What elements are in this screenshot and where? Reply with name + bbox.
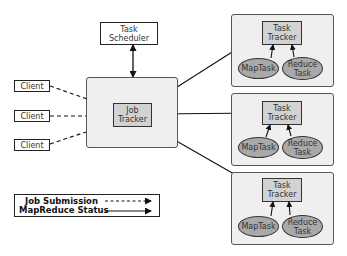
reduce-task-label-1: Reduce (288, 60, 318, 69)
task-tracker-box-3: Task Tracker (262, 178, 302, 202)
reduce-task-label-2: Task (288, 148, 318, 157)
task-scheduler-label-2: Scheduler (109, 34, 149, 43)
client-label: Client (20, 112, 43, 121)
client-label: Client (20, 141, 43, 150)
client-box-2: Client (14, 110, 50, 122)
task-scheduler-box: Task Scheduler (100, 22, 158, 45)
task-scheduler-label-1: Task (109, 25, 149, 34)
map-task-ellipse-3: MapTask (238, 216, 279, 237)
task-tracker-label-2: Tracker (268, 113, 297, 122)
client-box-1: Client (14, 80, 50, 92)
task-tracker-label-2: Tracker (268, 33, 297, 42)
reduce-task-label-2: Task (288, 227, 318, 236)
map-task-ellipse-1: MapTask (238, 58, 279, 79)
reduce-task-label-2: Task (288, 69, 318, 78)
map-task-label: MapTask (241, 143, 275, 152)
job-tracker-label-2: Tracker (118, 115, 147, 124)
job-tracker-label-1: Job (118, 106, 147, 115)
task-tracker-label-2: Tracker (268, 190, 297, 199)
reduce-task-label-1: Reduce (288, 218, 318, 227)
task-tracker-box-2: Task Tracker (262, 101, 302, 125)
reduce-task-ellipse-1: Reduce Task (282, 57, 323, 80)
task-tracker-box-1: Task Tracker (262, 21, 302, 45)
job-tracker-box: Job Tracker (113, 103, 152, 127)
reduce-task-ellipse-2: Reduce Task (282, 136, 323, 159)
client-box-3: Client (14, 139, 50, 151)
reduce-task-ellipse-3: Reduce Task (282, 215, 323, 238)
map-task-label: MapTask (241, 222, 275, 231)
reduce-task-label-1: Reduce (288, 139, 318, 148)
client-label: Client (20, 82, 43, 91)
task-tracker-label-1: Task (268, 181, 297, 190)
legend-line-samples (15, 195, 161, 218)
map-task-label: MapTask (241, 64, 275, 73)
legend-box: Job Submission MapReduce Status (14, 194, 160, 217)
task-tracker-label-1: Task (268, 24, 297, 33)
map-task-ellipse-2: MapTask (238, 137, 279, 158)
task-tracker-label-1: Task (268, 104, 297, 113)
